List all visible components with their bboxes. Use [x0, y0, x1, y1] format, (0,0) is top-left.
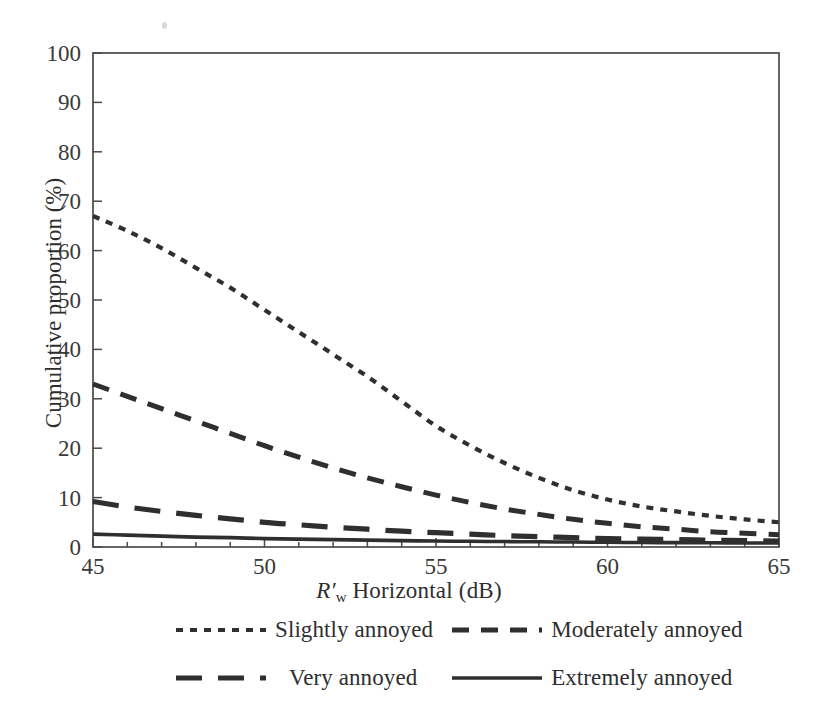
- legend-item-moderately-annoyed[interactable]: Moderately annoyed: [451, 617, 742, 643]
- x-tick-label: 50: [253, 554, 276, 579]
- y-axis-title: Cumulative proportion (%): [41, 103, 67, 503]
- figure-container: 0102030405060708090100 4550556065 Cumula…: [0, 0, 818, 713]
- legend-label-moderately: Moderately annoyed: [551, 617, 742, 643]
- xtick-label-group: 4550556065: [82, 554, 791, 579]
- legend-label-very: Very annoyed: [289, 665, 417, 691]
- x-tick-label: 65: [768, 554, 791, 579]
- legend-label-extremely: Extremely annoyed: [551, 665, 732, 691]
- legend-line-icon-slightly: [175, 623, 267, 637]
- x-axis-title: R′w Horizontal (dB): [0, 578, 818, 606]
- legend-item-very-annoyed[interactable]: Very annoyed: [175, 665, 433, 691]
- chart-legend: Slightly annoyed Moderately annoyed Very…: [175, 617, 735, 691]
- curve-group: [93, 216, 779, 543]
- x-axis-rest: Horizontal (dB): [353, 578, 502, 603]
- legend-line-icon-moderately: [451, 623, 543, 637]
- x-tick-label: 60: [596, 554, 619, 579]
- legend-item-slightly-annoyed[interactable]: Slightly annoyed: [175, 617, 433, 643]
- x-tick-label: 55: [425, 554, 448, 579]
- legend-label-slightly: Slightly annoyed: [275, 617, 433, 643]
- legend-item-extremely-annoyed[interactable]: Extremely annoyed: [451, 665, 742, 691]
- tick-group: [93, 53, 779, 547]
- plot-frame: [93, 53, 779, 547]
- chart-svg: 0102030405060708090100 4550556065: [0, 0, 818, 713]
- y-tick-label: 0: [70, 535, 82, 560]
- legend-line-icon-extremely: [451, 671, 543, 685]
- legend-line-icon-very: [175, 671, 267, 685]
- curve-very-annoyed: [93, 502, 779, 542]
- axis-group: [93, 53, 779, 547]
- x-axis-symbol: R: [316, 578, 330, 603]
- x-tick-label: 45: [82, 554, 105, 579]
- plot-area: 0102030405060708090100 4550556065: [0, 0, 818, 600]
- y-tick-label: 100: [47, 41, 82, 66]
- x-axis-subscript: w: [336, 589, 347, 605]
- curve-slightly-annoyed: [93, 216, 779, 522]
